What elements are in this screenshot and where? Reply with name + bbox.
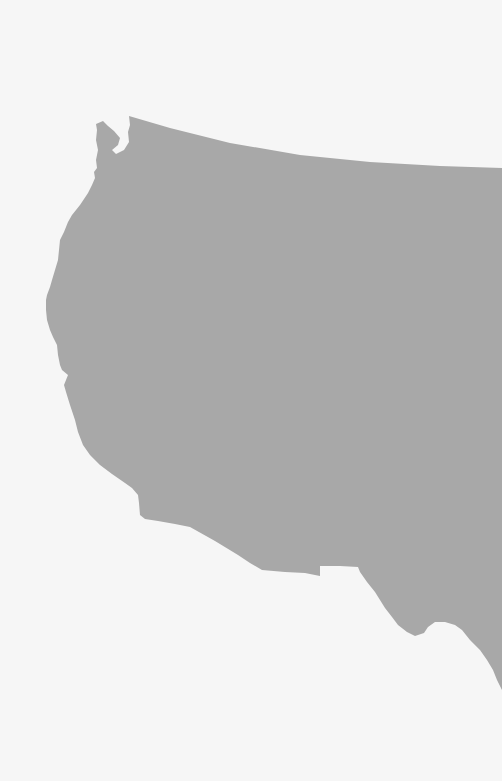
map-svg	[0, 0, 502, 781]
map-view: Western United States silhouette	[0, 0, 502, 781]
